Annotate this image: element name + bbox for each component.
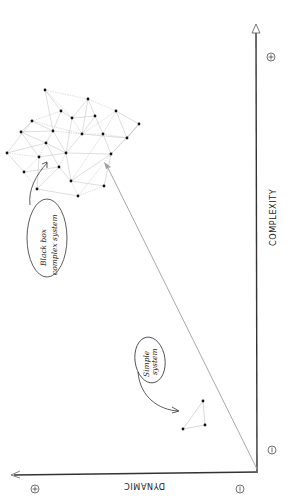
dynamic-min-marker: [236, 485, 244, 493]
network-edge: [32, 121, 53, 131]
network-node: [81, 133, 84, 136]
network-edge: [7, 121, 32, 153]
network-node: [71, 117, 74, 120]
network-edge: [78, 186, 104, 196]
network-edge: [111, 124, 139, 154]
network-edge: [7, 143, 46, 153]
network-edge: [32, 121, 82, 134]
progression-arrowhead: [104, 162, 111, 169]
network-edge: [59, 167, 71, 181]
network-node: [77, 195, 80, 198]
network-node: [44, 89, 47, 92]
network-edge: [72, 116, 95, 118]
network-edge: [21, 121, 32, 132]
network-node: [23, 171, 26, 174]
network-edge: [82, 116, 95, 134]
network-node: [58, 166, 61, 169]
network-edge: [203, 401, 205, 425]
network-edge: [66, 134, 82, 153]
network-node: [202, 400, 205, 403]
network-edge: [116, 111, 127, 138]
network-node: [6, 152, 9, 155]
network-node: [115, 110, 118, 113]
complexity-min-marker: [268, 446, 276, 454]
network-edge: [7, 153, 39, 157]
network-edge: [37, 167, 59, 189]
network-edge: [71, 154, 111, 181]
network-edge: [45, 90, 72, 118]
network-edge: [116, 111, 139, 124]
network-edge: [71, 181, 78, 196]
network-edge: [127, 124, 139, 138]
network-node: [36, 188, 39, 191]
network-edge: [71, 181, 104, 186]
simple-system-edges: [183, 401, 205, 429]
network-edge: [39, 143, 46, 157]
network-node: [60, 110, 63, 113]
network-edge: [103, 134, 111, 154]
network-edge: [95, 116, 103, 134]
network-node: [87, 98, 90, 101]
network-edge: [66, 153, 111, 154]
simple-label-line2: system: [150, 349, 159, 376]
dynamic-axis-line: [14, 472, 258, 475]
network-edge: [7, 153, 24, 172]
network-edge: [32, 111, 61, 121]
network-edge: [46, 131, 53, 143]
complexity-axis-line: [256, 28, 257, 471]
simple-callout-arrowhead: [172, 407, 179, 413]
network-edge: [24, 172, 37, 189]
network-edge: [45, 90, 88, 99]
network-node: [20, 131, 23, 134]
network-edge: [21, 131, 53, 132]
network-edge: [183, 401, 203, 429]
network-edge: [59, 153, 66, 167]
network-edge: [66, 118, 72, 153]
network-node: [182, 428, 185, 431]
network-edge: [37, 189, 78, 196]
network-edge: [82, 111, 116, 134]
dynamic-axis-label: DYNAMIC: [123, 481, 165, 491]
network-edge: [53, 131, 82, 134]
network-node: [110, 153, 113, 156]
network-node: [38, 156, 41, 159]
network-node: [45, 142, 48, 145]
complexity-max-marker: [267, 53, 275, 61]
network-edge: [103, 111, 116, 134]
network-edge: [45, 90, 61, 111]
complex-callout-arrowhead: [42, 162, 47, 168]
network-edge: [183, 425, 205, 429]
complex-system-edges: [7, 90, 139, 196]
network-edge: [45, 90, 53, 131]
network-edge: [39, 153, 66, 157]
network-node: [103, 185, 106, 188]
complexity-axis-arrowhead: [252, 24, 260, 33]
network-node: [204, 424, 207, 427]
progression-arrow: [107, 166, 257, 469]
network-node: [52, 130, 55, 133]
network-edge: [66, 153, 71, 181]
network-node: [70, 180, 73, 183]
complex-label-line1: Black box: [39, 228, 48, 267]
network-node: [102, 133, 105, 136]
simple-system-callout: Simple system: [132, 335, 179, 413]
network-node: [94, 115, 97, 118]
dynamic-max-marker: [31, 485, 39, 493]
network-node: [65, 152, 68, 155]
network-node: [31, 120, 34, 123]
complexity-axis-label: COMPLEXITY: [268, 189, 278, 246]
network-node: [126, 137, 129, 140]
network-edge: [24, 157, 39, 172]
complex-label-line2: complex system: [50, 214, 59, 275]
complexity-dynamic-diagram: COMPLEXITY DYNAMIC Simple system Black b…: [0, 0, 304, 498]
network-node: [138, 123, 141, 126]
network-edge: [72, 99, 88, 118]
